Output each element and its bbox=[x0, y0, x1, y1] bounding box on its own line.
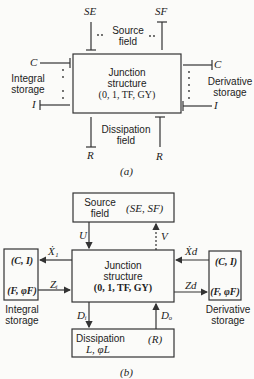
integral-f-phi-label: (F, φF) bbox=[4, 285, 40, 296]
se-label: SE bbox=[84, 6, 96, 17]
v-label: V bbox=[161, 231, 168, 242]
integral-i-label: I bbox=[32, 99, 36, 110]
integral-ci-label: (C, I) bbox=[6, 255, 38, 266]
derivative-f-phi-label: (F, φF) bbox=[207, 286, 243, 297]
derivative-i-label: I bbox=[214, 100, 218, 111]
caption-a: (a) bbox=[120, 166, 133, 177]
source-field-label-b: Source field bbox=[78, 197, 122, 219]
derivative-c-label: C bbox=[214, 59, 221, 70]
zi-label: Zᵢ bbox=[50, 279, 58, 290]
dissipation-label-b: Dissipation L, φL bbox=[76, 333, 125, 355]
caption-b: (b) bbox=[120, 367, 133, 378]
dissipation-field-label-a: Dissipation field bbox=[100, 124, 152, 146]
r-label-b: (R) bbox=[148, 334, 162, 345]
x1-dot-label: Ẋ₁ bbox=[48, 246, 59, 257]
source-field-label-a: Source field bbox=[106, 25, 150, 47]
u-label: U bbox=[79, 230, 87, 241]
derivative-storage-label-a: Derivative storage bbox=[206, 76, 254, 98]
xd-dot-label: Ẋd bbox=[185, 246, 197, 257]
derivative-storage-label-b: Derivative storage bbox=[204, 304, 252, 326]
integral-storage-label-b: Integral storage bbox=[2, 304, 42, 326]
zd-label: Zd bbox=[185, 280, 197, 291]
di-label: Dᵢ bbox=[77, 310, 87, 321]
sf-label: SF bbox=[155, 6, 167, 17]
source-elements-label: (SE, SF) bbox=[126, 203, 163, 214]
r-right-label: R bbox=[156, 151, 163, 162]
integral-c-label: C bbox=[30, 57, 37, 68]
junction-structure-b: Junction structure (0, 1, TF, GY) bbox=[76, 260, 170, 293]
derivative-ci-label: (C, I) bbox=[211, 256, 241, 267]
junction-structure-a: Junction structure (0, 1, TF, GY) bbox=[80, 67, 174, 100]
r-left-label: R bbox=[87, 150, 94, 161]
integral-storage-label-a: Integral storage bbox=[8, 73, 48, 95]
do-label: Dₒ bbox=[161, 310, 172, 321]
